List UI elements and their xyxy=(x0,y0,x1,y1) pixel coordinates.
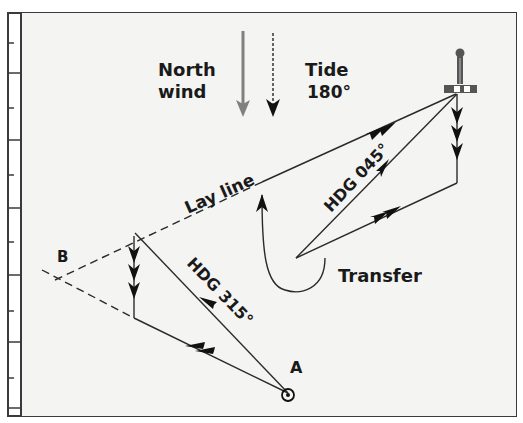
point-b-label: B xyxy=(57,248,68,266)
wind-label-line1: North xyxy=(158,59,216,80)
plot-area xyxy=(21,13,516,416)
tide-label-line1: Tide xyxy=(305,59,349,80)
tide-label-line2: 180° xyxy=(307,82,351,102)
tidal-vector-diagram: North wind Tide 180° xyxy=(0,0,523,423)
transfer-label: Transfer xyxy=(338,265,422,286)
point-a-label: A xyxy=(290,358,303,377)
wind-label-line2: wind xyxy=(158,81,207,102)
